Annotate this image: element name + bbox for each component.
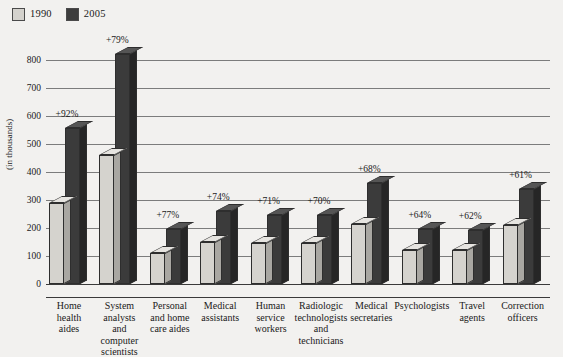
y-tick-100: 100 (7, 251, 41, 261)
y-tick-800: 800 (7, 55, 41, 65)
bar-group: +68% (351, 60, 401, 297)
plot-area: 8007006005004003002001000 +92%+79%+77%+7… (46, 60, 550, 284)
bar-1990 (452, 250, 467, 284)
bar-group: +70% (301, 60, 351, 297)
bar-group: +77% (150, 60, 200, 297)
x-axis-label-line: computer (87, 335, 151, 347)
bar-top (166, 222, 194, 229)
bar-side (518, 221, 525, 284)
bar-face (402, 250, 417, 284)
bar-face (351, 224, 366, 284)
bar-top (115, 47, 143, 54)
legend-label-1990: 1990 (30, 9, 52, 20)
bar-top (519, 182, 547, 189)
bar-1990 (251, 243, 266, 284)
legend-item-1990: 1990 (12, 8, 52, 21)
bar-side (231, 207, 238, 284)
bar-group: +79% (99, 60, 149, 297)
bar-percent-label: +61% (489, 170, 553, 180)
bar-side (316, 240, 323, 284)
floor-back-edge (46, 284, 550, 285)
bar-side (433, 225, 440, 284)
x-axis-labels: HomehealthaidesSystemanalystsandcomputer… (46, 300, 550, 357)
bar-1990 (351, 224, 366, 284)
growth-bar-chart: 1990 2005 (in thousands) 800700600500400… (0, 0, 563, 357)
bar-side (266, 240, 273, 284)
y-tick-500: 500 (7, 139, 41, 149)
bar-face (452, 250, 467, 284)
bar-percent-label: +68% (337, 164, 401, 174)
bar-group: +64% (402, 60, 452, 297)
bar-side (114, 151, 121, 284)
y-tick-0: 0 (7, 279, 41, 289)
bar-group: +61% (503, 60, 553, 297)
bar-side (382, 179, 389, 284)
bar-side (181, 226, 188, 284)
bar-side (417, 247, 424, 284)
bar-face (251, 243, 266, 284)
bar-side (483, 226, 490, 284)
x-axis-label-line: and (289, 323, 353, 335)
bar-face (301, 243, 316, 284)
bar-groups: +92%+79%+77%+74%+71%+70%+68%+64%+62%+61% (46, 60, 550, 297)
legend-swatch-2005 (66, 8, 79, 21)
bar-top (468, 223, 496, 230)
legend-swatch-1990 (12, 8, 25, 21)
bar-1990 (301, 243, 316, 284)
floor-front-edge (46, 297, 550, 298)
y-tick-300: 300 (7, 195, 41, 205)
bar-1990 (503, 225, 518, 284)
bar-percent-label: +92% (35, 109, 99, 119)
bar-side (165, 249, 172, 284)
bar-1990 (49, 203, 64, 284)
bar-percent-label: +79% (85, 35, 149, 45)
bar-side (282, 211, 289, 284)
bar-top (367, 176, 395, 183)
bar-face (503, 225, 518, 284)
chart-legend: 1990 2005 (12, 8, 106, 21)
legend-item-2005: 2005 (66, 8, 106, 21)
bar-side (467, 247, 474, 284)
bar-1990 (99, 155, 114, 284)
x-axis-label: Correctionofficers (491, 300, 555, 323)
bar-side (130, 50, 137, 284)
bar-side (64, 199, 71, 284)
y-tick-700: 700 (7, 83, 41, 93)
bar-top (317, 208, 345, 215)
bar-group: +92% (49, 60, 99, 297)
bar-face (150, 253, 165, 284)
bar-1990 (150, 253, 165, 284)
bar-face (99, 155, 114, 284)
x-axis-label-line: Correction (491, 300, 555, 312)
bar-side (215, 238, 222, 284)
bar-1990 (402, 250, 417, 284)
bar-percent-label: +77% (136, 210, 200, 220)
bar-side (80, 124, 87, 284)
y-tick-200: 200 (7, 223, 41, 233)
axis-floor (46, 284, 550, 297)
y-tick-400: 400 (7, 167, 41, 177)
bar-group: +74% (200, 60, 250, 297)
bar-face (200, 242, 215, 284)
bar-percent-label: +62% (438, 211, 502, 221)
legend-label-2005: 2005 (84, 9, 106, 20)
x-axis-label-line: secretaries (339, 312, 403, 324)
bar-side (534, 186, 541, 284)
bar-top (267, 208, 295, 215)
x-axis-label-line: care aides (138, 323, 202, 335)
bar-side (332, 211, 339, 284)
x-axis-label-line: officers (491, 312, 555, 324)
x-axis-label-line: scientists (87, 346, 151, 357)
bar-top (418, 222, 446, 229)
bar-face (49, 203, 64, 284)
x-axis-label-line: technicians (289, 335, 353, 347)
bar-top (65, 121, 93, 128)
bar-group: +71% (251, 60, 301, 297)
bar-1990 (200, 242, 215, 284)
bar-side (366, 220, 373, 284)
bar-percent-label: +70% (287, 196, 351, 206)
